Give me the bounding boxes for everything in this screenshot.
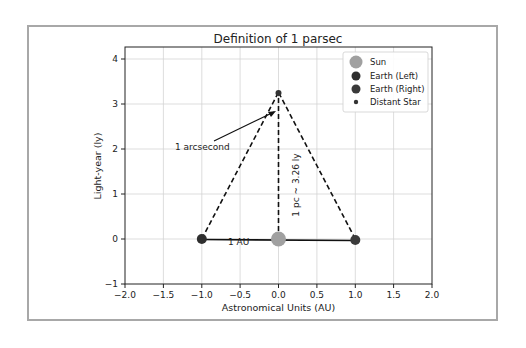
legend-sun-icon (350, 56, 363, 69)
earth-right-marker (350, 235, 360, 245)
legend: Sun Earth (Left) Earth (Right) Distant S… (343, 52, 428, 112)
y-tick-label: 4 (112, 54, 118, 64)
y-tick-label: 3 (112, 99, 118, 109)
chart-title: Definition of 1 parsec (214, 32, 343, 46)
y-tick-label: −1 (105, 279, 118, 289)
sun-marker (271, 232, 286, 247)
y-tick-labels: 4 3 2 1 0 −1 (105, 54, 119, 289)
legend-label-distant-star: Distant Star (370, 97, 421, 107)
x-tick-label: 2.0 (425, 290, 440, 300)
y-tick-label: 1 (112, 189, 118, 199)
x-tick-label: −1.0 (191, 290, 213, 300)
legend-label-earth-right: Earth (Right) (370, 84, 425, 94)
x-tick-label: −0.5 (229, 290, 251, 300)
x-tick-label: 1.0 (348, 290, 363, 300)
parsec-chart: Definition of 1 parsec (0, 0, 526, 348)
legend-label-sun: Sun (370, 57, 386, 67)
y-tick-label: 2 (112, 144, 118, 154)
x-tick-label: 0.5 (310, 290, 324, 300)
y-tick-label: 0 (112, 234, 118, 244)
annotation-arcsecond: 1 arcsecond (175, 142, 230, 152)
y-axis-label: Light-year (ly) (92, 133, 103, 200)
x-axis-label: Astronomical Units (AU) (222, 302, 335, 313)
x-tick-labels: −2.0 −1.5 −1.0 −0.5 0.0 0.5 1.0 1.5 2.0 (114, 290, 439, 300)
legend-star-icon (354, 100, 358, 104)
legend-earth-left-icon (352, 72, 361, 81)
legend-earth-right-icon (352, 85, 361, 94)
annotation-au: 1 AU (228, 237, 249, 247)
legend-label-earth-left: Earth (Left) (370, 71, 418, 81)
annotation-parsec: 1 pc ~ 3.26 ly (291, 153, 301, 217)
distant-star-marker (276, 90, 282, 96)
x-tick-label: −2.0 (114, 290, 136, 300)
x-tick-label: 1.5 (386, 290, 400, 300)
earth-left-marker (197, 234, 207, 244)
x-tick-label: −1.5 (152, 290, 174, 300)
x-tick-label: 0.0 (271, 290, 286, 300)
